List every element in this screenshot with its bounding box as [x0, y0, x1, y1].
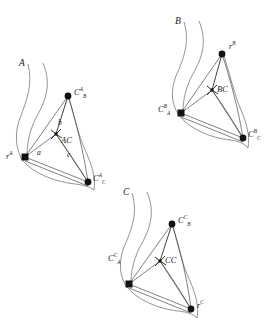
panel-c-edge-ca-root [129, 284, 191, 309]
panel-c-node-root[interactable] [188, 306, 195, 313]
panel-a-edge-root-cc [25, 157, 88, 182]
panel-c-root-sup: C [200, 299, 204, 305]
panel-b-ca-sup: B [164, 103, 167, 109]
panel-a-edge-root-cc-2 [25, 161, 88, 186]
panel-c-edge-ca-root-2 [129, 288, 191, 313]
panel-b-curve-bottom [178, 114, 248, 148]
panel-b-cc-label: CBC [248, 130, 260, 139]
panel-b-cc-sup: B [254, 128, 257, 134]
panel-c-cb-sup: C [184, 214, 188, 220]
panel-a-cc-label: CAC [93, 174, 105, 183]
figure-canvas: A rA CAB CAC AC a b c B rB CBA CBC BC C … [0, 0, 266, 326]
panel-a-group [16, 63, 94, 190]
panel-b-edge-ca-inner [181, 90, 212, 113]
panel-c-node-ca[interactable] [126, 281, 133, 288]
panel-c-ca-sub: A [117, 259, 120, 265]
panel-a-edge-a-label: a [37, 149, 41, 157]
panel-a-node-cb[interactable] [65, 93, 72, 100]
panel-b-node-cc[interactable] [240, 135, 247, 142]
panel-b-node-ca[interactable] [178, 110, 185, 117]
panel-a-node-root[interactable] [22, 154, 29, 161]
panel-b-ca-label: CBA [158, 105, 170, 114]
panel-c-edge-inner-root [160, 261, 191, 309]
panel-c-cb-label: CCB [178, 216, 190, 225]
panel-b-node-inner[interactable] [210, 88, 213, 91]
panel-c-curve-outer [120, 193, 134, 286]
panel-a-cc-sup: A [99, 172, 102, 178]
panel-c-group [120, 192, 197, 318]
panel-b-ca-sub: A [167, 110, 170, 116]
panel-b-root-sup: B [232, 40, 235, 46]
panel-a-curve-label: A [19, 59, 25, 69]
panel-a-cb-label: CAB [74, 88, 86, 97]
panel-b-edge-ca-cc-2 [181, 117, 243, 142]
panel-b-curve-outer [172, 22, 186, 114]
panel-c-inner-label: CC [165, 256, 176, 265]
panel-b-root-label: rB [229, 42, 236, 51]
panel-c-edge-ca-inner [129, 261, 160, 284]
panel-b-group [172, 21, 248, 148]
panel-c-edge-ca-cb [129, 224, 172, 284]
panel-c-node-inner[interactable] [158, 259, 161, 262]
panel-a-cb-sup: A [80, 86, 83, 92]
panel-b-edge-ca-root [181, 54, 222, 113]
panel-c-edge-cb-root-arc [172, 224, 191, 309]
panel-c-cb-sub: B [187, 221, 190, 227]
panel-b-inner-label: BC [217, 85, 228, 94]
panel-b-edge-root-cc-arc [222, 54, 243, 138]
panel-a-edge-inner-cb [56, 96, 68, 134]
panel-b-curve-right [224, 56, 249, 148]
panel-a-inner-label: AC [61, 136, 72, 145]
panel-a-cb-sub: B [83, 93, 86, 99]
panel-a-edge-b-label: b [58, 119, 62, 127]
panel-c-ca-sup: C [114, 252, 118, 258]
panel-b-node-root[interactable] [219, 51, 226, 58]
panel-a-node-inner[interactable] [54, 132, 57, 135]
panel-a-edge-c-label: c [67, 151, 70, 159]
panel-c-ca-label: CCA [108, 254, 120, 263]
panel-a-node-cc[interactable] [85, 179, 92, 186]
panel-b-curve-label: B [175, 17, 181, 27]
panel-a-cc-sub: C [102, 179, 106, 185]
panel-c-curve-right [173, 227, 198, 318]
panel-c-node-cb[interactable] [169, 221, 176, 228]
panel-b-cc-sub: C [257, 135, 261, 141]
panel-a-root-sup: A [9, 150, 12, 156]
diagram-svg [0, 0, 266, 326]
panel-c-root-label: rC [197, 301, 204, 310]
panel-c-curve-label: C [123, 188, 129, 198]
panel-a-root-label: rA [6, 152, 13, 161]
